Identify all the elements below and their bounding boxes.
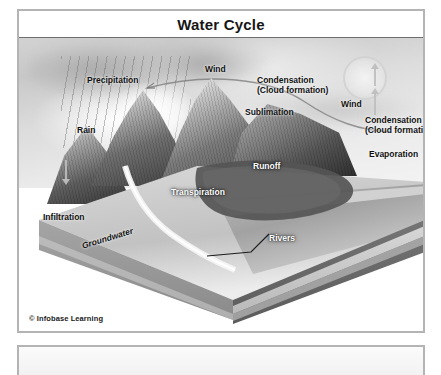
evaporation-arrow-1 [374, 68, 376, 86]
label-condensation-right: Condensation (Cloud formation) [365, 116, 423, 135]
sun-icon [343, 56, 387, 100]
label-wind-left: Wind [205, 65, 226, 75]
label-runoff: Runoff [253, 162, 280, 172]
label-transpiration: Transpiration [171, 188, 225, 198]
label-wind-right: Wind [341, 100, 362, 110]
figure-title-bar: Water Cycle [19, 11, 423, 38]
terrain-block-diagram [21, 124, 423, 331]
label-rivers: Rivers [269, 234, 295, 244]
copyright-credit: © Infobase Learning [29, 314, 103, 323]
label-sublimation: Sublimation [245, 108, 294, 118]
page-title: Water Cycle [177, 16, 265, 33]
water-cycle-illustration: Precipitation Wind Condensation (Cloud f… [19, 38, 423, 331]
infiltration-arrow [65, 160, 67, 180]
evaporation-arrow-2 [374, 93, 376, 115]
water-cycle-figure: Water Cycle [17, 9, 425, 333]
label-infiltration: Infiltration [43, 213, 85, 223]
label-evaporation: Evaporation [369, 150, 418, 160]
next-figure-frame [17, 345, 425, 375]
label-condensation-left: Condensation (Cloud formation) [257, 76, 328, 95]
label-precipitation: Precipitation [87, 76, 138, 86]
label-rain: Rain [77, 126, 95, 136]
